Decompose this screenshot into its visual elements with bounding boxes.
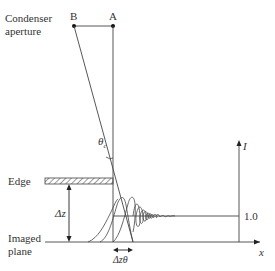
i-axis-arrow-icon bbox=[237, 140, 242, 146]
plane-label: plane bbox=[8, 245, 32, 257]
aperture-label: aperture bbox=[5, 25, 41, 37]
theta-c-label: θc bbox=[98, 135, 107, 152]
diagram-canvas bbox=[0, 0, 275, 271]
fringe-curves bbox=[88, 197, 175, 242]
delta-z-label: Δz bbox=[55, 207, 66, 219]
x-axis-arrow-icon bbox=[254, 240, 260, 245]
level-label: 1.0 bbox=[244, 210, 258, 222]
point-b-label: B bbox=[70, 10, 77, 22]
delta-z-theta-arrows bbox=[113, 248, 133, 253]
aperture-line bbox=[72, 24, 115, 28]
oblique-ray-line bbox=[74, 26, 133, 242]
condenser-label: Condenser bbox=[5, 12, 52, 24]
edge-label: Edge bbox=[8, 175, 31, 187]
edge-bar bbox=[45, 178, 113, 184]
axis-i-label: I bbox=[243, 140, 247, 152]
delta-z-theta-label: Δzθ bbox=[113, 254, 128, 266]
axis-x-label: x bbox=[259, 246, 264, 258]
point-a-label: A bbox=[109, 10, 117, 22]
imaged-label: Imaged bbox=[8, 232, 41, 244]
